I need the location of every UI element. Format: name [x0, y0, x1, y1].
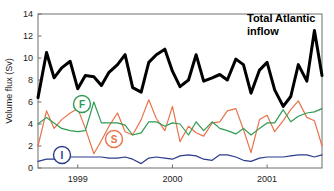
total-inflow-label-line1: Total Atlantic — [247, 12, 315, 24]
figure-background — [0, 0, 334, 191]
y-tick-label: 6 — [28, 97, 33, 107]
y-tick-label: 2 — [28, 141, 33, 151]
y-tick-label: 14 — [23, 9, 33, 19]
line-chart: 02468101214 199920002001 Volume flux (Sv… — [0, 0, 334, 191]
marker-f-letter: F — [79, 99, 85, 110]
marker-i-letter: I — [61, 150, 64, 161]
x-tick-label: 2000 — [162, 174, 182, 184]
chart-figure: 02468101214 199920002001 Volume flux (Sv… — [0, 0, 334, 191]
series-marker-f: F — [74, 96, 91, 113]
marker-s-letter: S — [111, 134, 118, 145]
y-tick-label: 12 — [23, 31, 33, 41]
y-tick-label: 4 — [28, 119, 33, 129]
total-inflow-label-line2: inflow — [247, 25, 279, 37]
y-tick-label: 0 — [28, 163, 33, 173]
series-marker-s: S — [106, 131, 123, 148]
x-tick-label: 2001 — [257, 174, 277, 184]
y-axis-label: Volume flux (Sv) — [4, 58, 14, 124]
series-marker-i: I — [54, 147, 71, 164]
x-tick-label: 1999 — [68, 174, 88, 184]
y-tick-label: 8 — [28, 75, 33, 85]
y-tick-label: 10 — [23, 53, 33, 63]
